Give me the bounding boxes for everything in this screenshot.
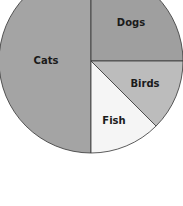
label-birds: Birds: [130, 78, 159, 89]
slice-cats: [0, 0, 91, 153]
pie-chart: Dogs Cats Birds Fish: [0, 0, 183, 206]
label-fish: Fish: [102, 115, 125, 126]
label-dogs: Dogs: [117, 17, 145, 28]
label-cats: Cats: [34, 55, 59, 66]
slice-dogs: [91, 0, 183, 61]
